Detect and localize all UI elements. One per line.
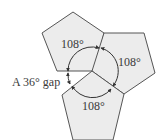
arc-gap: [68, 73, 70, 84]
angle-label-top: 108°: [61, 37, 84, 51]
angle-label-right: 108°: [118, 55, 141, 69]
angle-label-bottom: 108°: [82, 99, 105, 113]
pentagon-diagram: 108° 108° 108° A 36° gap: [0, 0, 163, 140]
gap-label: A 36° gap: [12, 75, 60, 89]
